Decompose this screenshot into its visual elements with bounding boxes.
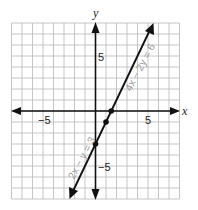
coordinate-plane: x y −5 5 5 −5 4x − 2y = 6 2x − y = 3	[0, 0, 198, 210]
y-axis-label: y	[92, 6, 99, 20]
y-tick-label-neg5: −5	[98, 161, 111, 173]
data-point	[108, 108, 114, 114]
y-axis-up-arrow-icon	[92, 22, 100, 33]
x-tick-label-5: 5	[145, 114, 151, 126]
x-axis-left-arrow-icon	[11, 107, 21, 115]
y-axis-down-arrow-icon	[92, 189, 100, 200]
y-tick-label-5: 5	[98, 51, 104, 63]
x-tick-label-neg5: −5	[38, 114, 51, 126]
data-point	[103, 119, 109, 125]
x-axis-label: x	[181, 104, 188, 118]
line-upper-arrow-icon	[145, 23, 154, 35]
x-axis-right-arrow-icon	[170, 107, 180, 115]
